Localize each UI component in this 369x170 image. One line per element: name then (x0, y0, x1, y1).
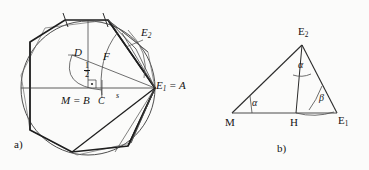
half-denominator: 2 (84, 71, 90, 79)
label-point-e1-equals-a: E1 = A (156, 80, 186, 93)
label-half-fraction: 1 2 (84, 62, 90, 80)
e2-subscript-b: 2 (305, 31, 309, 39)
label-vertex-h: H (290, 117, 298, 128)
spoke-e1-e (115, 88, 155, 152)
label-angle-alpha-at-e2: α (298, 60, 303, 70)
label-angle-alpha-at-m: α (252, 98, 257, 108)
label-point-e2: E2 (141, 27, 151, 40)
e2-letter-b: E (298, 25, 305, 37)
panel-b-triangle (232, 45, 337, 115)
right-angle-dot (91, 83, 93, 85)
label-segment-s: s (116, 92, 119, 100)
label-center-m-equals-b: M = B (61, 95, 90, 106)
e1-letter: E (156, 79, 163, 91)
panel-a-circle-construction (21, 13, 155, 155)
spoke-e1-d (131, 88, 155, 143)
label-point-d: D (74, 47, 82, 58)
label-point-c: C (98, 96, 105, 106)
e1-equals-a: = A (166, 79, 185, 91)
e2-subscript: 2 (148, 32, 152, 40)
side-m-e2 (232, 45, 302, 113)
e2-letter: E (141, 26, 148, 38)
caption-b: b) (277, 143, 286, 154)
half-numerator: 1 (84, 62, 90, 70)
label-vertex-e1: E1 (338, 115, 348, 128)
angle-arc-h (296, 112, 334, 115)
angle-arc-e2 (293, 74, 311, 76)
caption-a: a) (14, 139, 23, 150)
spoke-e1-a (122, 33, 155, 88)
label-vertex-m: M (225, 117, 235, 128)
figure-canvas: D F 1 2 M = B C s E1 = A E2 a) M H E1 E2… (0, 0, 369, 170)
e1-subscript-b: 1 (345, 120, 349, 128)
cevian-e2-h (296, 45, 302, 113)
label-vertex-e2: E2 (298, 26, 308, 39)
label-angle-beta-at-e1: β (319, 93, 324, 103)
e1-letter-b: E (338, 114, 345, 126)
label-point-f: F (103, 51, 110, 62)
